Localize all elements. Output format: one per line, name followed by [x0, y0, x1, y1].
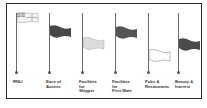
- flag-group-rnli: RNLI: [13, 4, 47, 98]
- flagpole: [49, 13, 50, 73]
- flagpole: [148, 13, 149, 73]
- flag-label: Beauty & Interest: [175, 80, 207, 89]
- dark-flag-icon: [179, 38, 201, 51]
- dark-flag-icon: [116, 26, 138, 39]
- flag-label: Ease of Access: [46, 80, 78, 89]
- dark-flag-icon: [50, 25, 72, 38]
- flag-chart-frame: RNLI Ease of Access Facilities for Skipp…: [6, 3, 202, 99]
- cleat-icon: [177, 71, 180, 74]
- flag-label: RNLI: [13, 80, 45, 85]
- flag-group-pubs-restaurants: Pubs & Restaurants: [145, 4, 179, 98]
- light-flag-icon: [83, 37, 105, 50]
- flag-label: Facilities for Skipper: [79, 80, 111, 94]
- flag-label: Facilities for First Mate: [112, 80, 144, 94]
- cleat-icon: [48, 71, 51, 74]
- flagpole: [115, 13, 116, 73]
- flag-group-ease-of-access: Ease of Access: [46, 4, 80, 98]
- cleat-icon: [114, 71, 117, 74]
- flag-group-facilities-skipper: Facilities for Skipper: [79, 4, 113, 98]
- flag-group-facilities-first-mate: Facilities for First Mate: [112, 4, 146, 98]
- cleat-icon: [147, 71, 150, 74]
- cleat-icon: [15, 71, 18, 74]
- flag-group-beauty-interest: Beauty & Interest: [175, 4, 207, 98]
- outline-flag-icon: [149, 49, 171, 62]
- cleat-icon: [81, 71, 84, 74]
- rnli-ensign-flag-icon: [17, 12, 39, 23]
